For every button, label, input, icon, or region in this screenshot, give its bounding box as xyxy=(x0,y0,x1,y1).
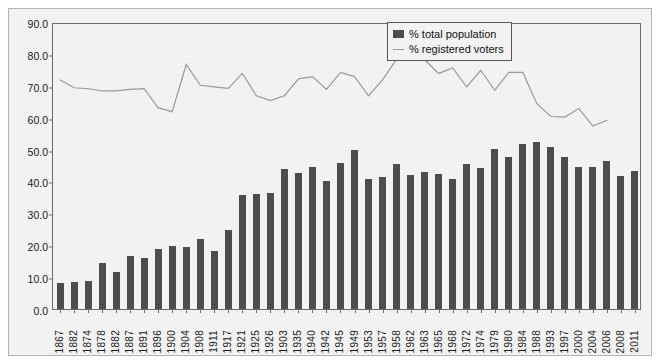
plot-inner: 0.010.020.030.040.050.060.070.080.090.0 xyxy=(53,24,640,309)
x-axis-tick-label: 1942 xyxy=(321,330,331,353)
x-axis-tick-label: 1972 xyxy=(462,330,472,353)
x-axis-tick-label: 1887 xyxy=(125,330,135,353)
x-axis-tick-label: 1911 xyxy=(209,330,219,353)
x-axis-tick-label: 2008 xyxy=(616,330,626,353)
x-axis-tick-label: 1949 xyxy=(350,330,360,353)
x-axis-tick-label: 2006 xyxy=(602,330,612,353)
y-axis-tick-label: 50.0 xyxy=(28,146,48,157)
x-axis-tick-label: 1904 xyxy=(181,330,191,353)
y-axis-tick-label: 80.0 xyxy=(28,51,48,62)
x-axis-tick-label: 1962 xyxy=(406,330,416,353)
x-axis-tick-label: 1882 xyxy=(69,330,79,353)
x-axis-tick-label: 1926 xyxy=(265,330,275,353)
x-axis-tick-label: 1921 xyxy=(237,330,247,353)
y-axis-tick-label: 60.0 xyxy=(28,114,48,125)
x-axis-tick-label: 1953 xyxy=(364,330,374,353)
x-axis-tick-label: 1935 xyxy=(293,330,303,353)
x-axis-tick-label: 1980 xyxy=(504,330,514,353)
y-axis-tick-label: 40.0 xyxy=(28,178,48,189)
y-axis-tick-label: 70.0 xyxy=(28,83,48,94)
x-axis-tick-label: 1940 xyxy=(307,330,317,353)
x-axis-tick-label: 1925 xyxy=(251,330,261,353)
x-axis-tick-label: 2004 xyxy=(588,330,598,353)
x-axis-tick-label: 2000 xyxy=(574,330,584,353)
plot-area: 0.010.020.030.040.050.060.070.080.090.0 … xyxy=(52,23,641,310)
legend-label-total-population: % total population xyxy=(409,28,496,40)
bar-swatch-icon xyxy=(393,30,404,38)
x-axis-tick-label: 1965 xyxy=(434,330,444,353)
x-axis-tick-label: 1867 xyxy=(55,330,65,353)
line-series xyxy=(53,24,642,311)
chart-container: 0.010.020.030.040.050.060.070.080.090.0 … xyxy=(0,0,660,364)
chart-legend: % total population % registered voters xyxy=(387,22,512,61)
x-axis-tick-label: 1963 xyxy=(420,330,430,353)
chart-panel: 0.010.020.030.040.050.060.070.080.090.0 … xyxy=(8,8,652,356)
x-axis-tick-label: 1908 xyxy=(195,330,205,353)
x-axis-tick-label: 1917 xyxy=(223,330,233,353)
x-axis-tick-label: 1903 xyxy=(279,330,289,353)
x-axis-tick-label: 1945 xyxy=(335,330,345,353)
y-axis-tick-label: 20.0 xyxy=(28,242,48,253)
x-axis-tick-label: 1957 xyxy=(378,330,388,353)
x-axis-tick-label: 1984 xyxy=(518,330,528,353)
x-axis-tick-label: 1968 xyxy=(448,330,458,353)
x-axis-tick-label: 1988 xyxy=(532,330,542,353)
y-axis-tick-label: 10.0 xyxy=(28,274,48,285)
x-axis-tick-label: 1997 xyxy=(560,330,570,353)
y-axis-tick-label: 0.0 xyxy=(33,306,48,317)
x-axis-tick-label: 1993 xyxy=(546,330,556,353)
x-axis-tick-label: 1891 xyxy=(139,330,149,353)
legend-item-total-population: % total population xyxy=(393,26,504,41)
y-axis-tick-label: 30.0 xyxy=(28,210,48,221)
legend-item-registered-voters: % registered voters xyxy=(393,41,504,56)
x-axis-tick-label: 1896 xyxy=(153,330,163,353)
x-axis-tick-label: 1979 xyxy=(490,330,500,353)
legend-label-registered-voters: % registered voters xyxy=(409,43,504,55)
line-swatch-icon xyxy=(393,45,404,53)
x-axis-tick-label: 1882 xyxy=(111,330,121,353)
x-axis-tick-label: 1878 xyxy=(97,330,107,353)
x-axis-tick-label: 2011 xyxy=(630,330,640,353)
x-axis-tick-label: 1874 xyxy=(83,330,93,353)
x-axis-tick-label: 1974 xyxy=(476,330,486,353)
registered-voters-line xyxy=(60,59,607,126)
x-axis-tick-label: 1958 xyxy=(392,330,402,353)
y-axis-tick-label: 90.0 xyxy=(28,19,48,30)
x-axis-tick-label: 1900 xyxy=(167,330,177,353)
